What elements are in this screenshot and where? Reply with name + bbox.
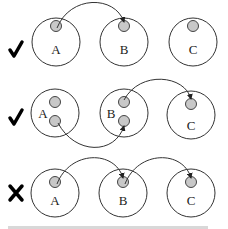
- node-label: B: [107, 106, 116, 121]
- inner-dot: [50, 97, 61, 108]
- node-label: B: [119, 193, 128, 208]
- node-label: C: [187, 118, 196, 133]
- inner-dot: [50, 177, 61, 188]
- node-label: C: [187, 193, 196, 208]
- cropped-caption-fragment: [8, 226, 208, 229]
- cross-icon: [10, 186, 22, 200]
- arrow-a-to-b: [57, 2, 124, 28]
- inner-dot: [188, 21, 199, 32]
- node-label: B: [120, 42, 129, 57]
- check-icon: [10, 110, 22, 124]
- inner-dot: [119, 21, 130, 32]
- check-icon: [10, 42, 22, 56]
- node-label: A: [50, 193, 60, 208]
- inner-dot: [118, 177, 129, 188]
- node-label: A: [51, 42, 61, 57]
- node-label: C: [189, 42, 198, 57]
- inner-dot: [119, 97, 130, 108]
- inner-dot: [186, 99, 197, 110]
- diagram-row-1: A B C: [10, 2, 217, 66]
- diagram-row-3: A B C: [10, 158, 215, 217]
- diagram-canvas: A B C A B C A B C: [0, 0, 228, 229]
- arrow-b-to-c: [124, 79, 191, 100]
- inner-dot: [186, 177, 197, 188]
- diagram-row-2: A B C: [10, 79, 215, 147]
- node-label: A: [38, 106, 48, 121]
- inner-dot: [119, 116, 130, 127]
